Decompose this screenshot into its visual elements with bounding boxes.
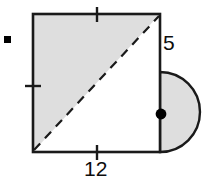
- figure-container: 5 12: [0, 0, 206, 188]
- midpoint-dot: [156, 109, 167, 120]
- label-right-side-length: 5: [163, 32, 175, 53]
- bullet-square-marker: [4, 36, 11, 43]
- label-bottom-side-length: 12: [84, 158, 107, 179]
